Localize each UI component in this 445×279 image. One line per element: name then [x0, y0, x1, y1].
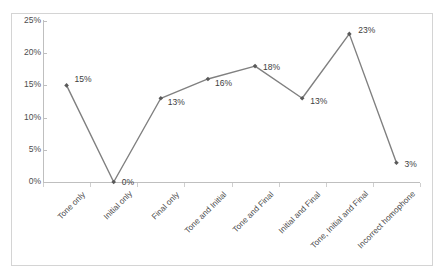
x-axis-category-label: Tone and Initial — [183, 190, 228, 235]
x-axis-category-labels: Tone onlyInitial onlyFinal onlyTone and … — [0, 0, 445, 279]
x-axis-category-label: Tone only — [56, 190, 87, 221]
x-axis-category-label: Initial only — [102, 190, 134, 222]
x-axis-category-label: Initial and Final — [277, 190, 322, 235]
x-axis-category-label: Tone and Final — [231, 190, 275, 234]
x-axis-category-label: Final only — [150, 190, 181, 221]
chart-container: 0%5%10%15%20%25% 15%0%13%16%18%13%23%3% … — [0, 0, 445, 279]
